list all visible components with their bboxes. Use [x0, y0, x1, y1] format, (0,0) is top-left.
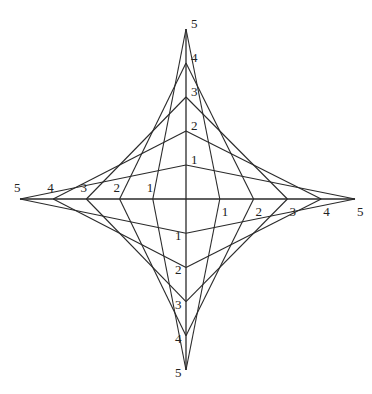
- axis-label-up-3: 3: [191, 84, 198, 99]
- axis-label-left-3: 3: [80, 180, 87, 195]
- string-line-left-up: [86, 97, 186, 199]
- axis-label-left-1: 1: [147, 180, 154, 195]
- string-line-right-down: [186, 199, 321, 267]
- axis-label-right-4: 4: [323, 204, 330, 219]
- axes: [20, 29, 355, 370]
- axis-label-down-5: 5: [175, 365, 182, 380]
- axis-label-right-1: 1: [222, 204, 229, 219]
- axis-label-right-2: 2: [256, 204, 263, 219]
- string-art-diagram: 12345123451234512345: [0, 0, 372, 394]
- axis-label-down-2: 2: [175, 262, 182, 277]
- string-line-up-right: [186, 97, 287, 199]
- string-line-left-up: [20, 165, 186, 199]
- axis-label-up-1: 1: [191, 152, 198, 167]
- axis-labels: 12345123451234512345: [14, 16, 364, 380]
- axis-label-left-4: 4: [47, 180, 54, 195]
- axis-label-up-2: 2: [191, 118, 198, 133]
- axis-label-up-5: 5: [191, 16, 198, 31]
- axis-label-right-5: 5: [357, 204, 364, 219]
- axis-label-up-4: 4: [191, 50, 198, 65]
- axis-label-down-3: 3: [175, 297, 182, 312]
- string-line-right-down: [186, 199, 287, 302]
- axis-label-left-2: 2: [114, 180, 121, 195]
- axis-label-right-3: 3: [289, 204, 296, 219]
- axis-label-down-1: 1: [175, 228, 182, 243]
- axis-label-left-5: 5: [14, 180, 21, 195]
- axis-label-down-4: 4: [175, 331, 182, 346]
- string-line-down-left: [86, 199, 186, 302]
